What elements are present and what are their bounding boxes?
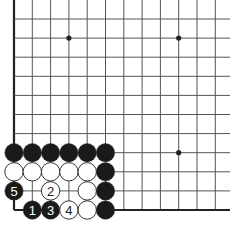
black-stone (78, 144, 96, 162)
black-stone-1: 1 (23, 201, 41, 219)
stone-body (78, 182, 96, 200)
white-stone (41, 163, 59, 181)
move-number: 2 (47, 184, 54, 199)
white-stone (78, 201, 96, 219)
black-stone (60, 144, 78, 162)
white-stone (78, 163, 96, 181)
star-point (66, 36, 71, 41)
black-stone (41, 144, 59, 162)
white-stone-4: 4 (60, 201, 78, 219)
move-number: 3 (47, 203, 54, 218)
stone-body (41, 163, 59, 181)
stone-body (78, 163, 96, 181)
stone-body (23, 144, 41, 162)
white-stone (5, 163, 23, 181)
stone-body (5, 163, 23, 181)
black-stone (23, 144, 41, 162)
move-number: 5 (10, 184, 17, 199)
stones: 52134 (5, 144, 115, 220)
black-stone (96, 163, 114, 181)
white-stone (23, 163, 41, 181)
black-stone (5, 144, 23, 162)
stone-body (96, 144, 114, 162)
star-point (176, 150, 181, 155)
stone-body (96, 201, 114, 219)
white-stone-2: 2 (41, 182, 59, 200)
star-point (176, 36, 181, 41)
black-stone (96, 201, 114, 219)
move-number: 4 (65, 203, 72, 218)
stone-body (23, 163, 41, 181)
black-stone-3: 3 (41, 201, 59, 219)
move-number: 1 (29, 203, 36, 218)
go-board: 52134 (0, 0, 230, 227)
stone-body (60, 144, 78, 162)
stone-body (78, 201, 96, 219)
stone-body (96, 163, 114, 181)
white-stone (60, 163, 78, 181)
black-stone-5: 5 (5, 182, 23, 200)
white-stone (78, 182, 96, 200)
stone-body (78, 144, 96, 162)
stone-body (5, 144, 23, 162)
stone-body (96, 182, 114, 200)
black-stone (96, 182, 114, 200)
stone-body (60, 163, 78, 181)
black-stone (96, 144, 114, 162)
stone-body (41, 144, 59, 162)
